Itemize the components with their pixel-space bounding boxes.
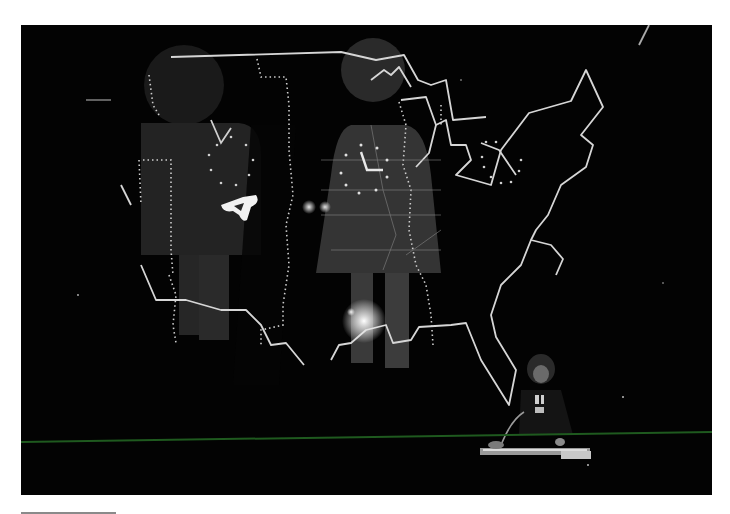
green-stage-edge <box>21 432 712 442</box>
light-spot <box>347 308 355 316</box>
performer-at-keyboard <box>480 354 591 459</box>
dotted-cluster-east <box>481 141 523 185</box>
stage-photo <box>21 25 712 495</box>
light-spot <box>319 201 331 213</box>
stage-light-glow <box>342 299 386 343</box>
light-spot <box>302 200 316 214</box>
projected-map-scene <box>21 25 712 495</box>
